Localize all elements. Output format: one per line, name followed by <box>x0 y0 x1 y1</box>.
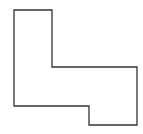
l-shaped-polygon <box>14 10 137 125</box>
diagram-canvas <box>0 0 143 134</box>
